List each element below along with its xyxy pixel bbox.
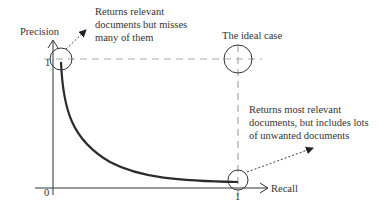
annotation-bottom-right-line1: Returns most relevant [249, 104, 341, 115]
annotation-top-left-line2: documents but misses [95, 19, 187, 30]
arrow-top-left-annotation [66, 30, 86, 49]
arrow-bottom-right-annotation [247, 148, 313, 172]
x-tick-one: 1 [235, 191, 240, 202]
y-tick-one: 1 [45, 57, 50, 68]
annotation-ideal-case: The ideal case [222, 30, 282, 41]
precision-recall-diagram: Precision Recall 0 1 1 Returns relevant … [0, 0, 388, 211]
annotation-bottom-right-line2: documents, but includes lots [249, 117, 369, 128]
y-axis-label: Precision [20, 26, 60, 37]
annotation-top-left-line3: many of them [95, 32, 153, 43]
x-axis-label: Recall [271, 183, 298, 194]
annotation-top-left-line1: Returns relevant [95, 6, 164, 17]
precision-recall-curve [61, 62, 238, 182]
annotation-bottom-right-line3: of unwanted documents [249, 130, 349, 141]
origin-label: 0 [44, 187, 49, 198]
